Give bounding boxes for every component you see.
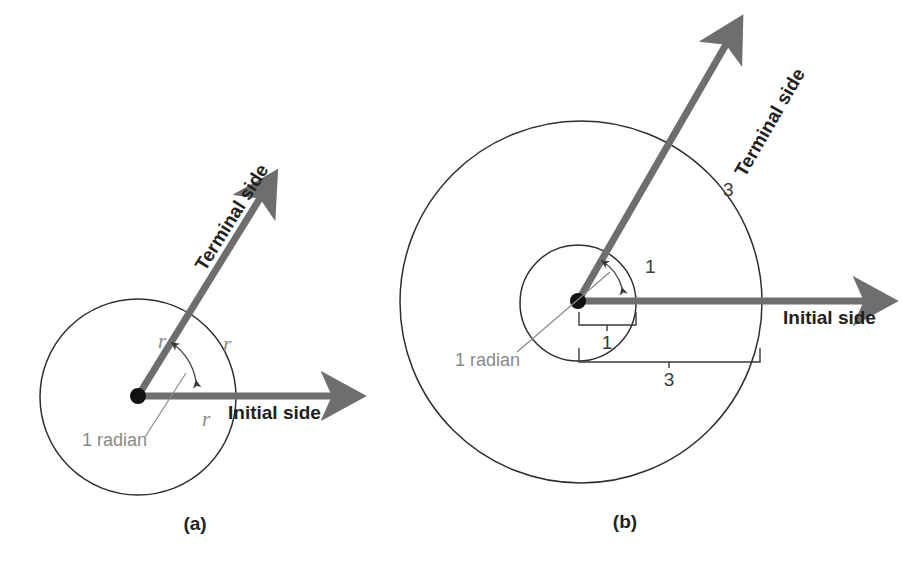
panel-b-terminal-side-label: Terminal side bbox=[730, 65, 809, 180]
panel-a-initial-side-label: Initial side bbox=[228, 402, 321, 423]
panel-b-angle-leader-line bbox=[517, 272, 610, 352]
radian-figure: r r r 1 radian Initial side Terminal sid… bbox=[0, 0, 902, 578]
panel-a-terminal-side-label: Terminal side bbox=[191, 160, 273, 274]
panel-a-vertex-dot bbox=[130, 388, 146, 404]
panel-a-angle-label: 1 radian bbox=[82, 430, 147, 450]
panel-b-initial-side-label: Initial side bbox=[783, 307, 876, 328]
panel-b-inner-bracket-label: 1 bbox=[602, 332, 613, 353]
panel-b-outer-bracket-label: 3 bbox=[664, 369, 675, 390]
panel-b: 1 3 1 3 1 radian Initial side Terminal s… bbox=[400, 41, 876, 532]
panel-b-inner-arc-label: 1 bbox=[645, 256, 656, 277]
panel-b-outer-arc-label: 3 bbox=[723, 179, 734, 200]
panel-a-angle-leader-line bbox=[145, 373, 186, 437]
panel-b-inner-bracket bbox=[579, 312, 636, 325]
panel-a-radius-label-initial: r bbox=[202, 407, 211, 431]
panel-b-caption: (b) bbox=[613, 511, 637, 532]
panel-a: r r r 1 radian Initial side Terminal sid… bbox=[40, 160, 336, 534]
panel-b-angle-arc bbox=[602, 261, 622, 288]
figure-canvas: r r r 1 radian Initial side Terminal sid… bbox=[0, 0, 902, 578]
panel-a-terminal-side-ray bbox=[138, 195, 262, 396]
panel-a-arc-length-label: r bbox=[223, 332, 232, 356]
panel-a-caption: (a) bbox=[183, 513, 206, 534]
panel-b-angle-label: 1 radian bbox=[455, 350, 520, 370]
panel-a-radius-label-terminal: r bbox=[158, 329, 167, 353]
